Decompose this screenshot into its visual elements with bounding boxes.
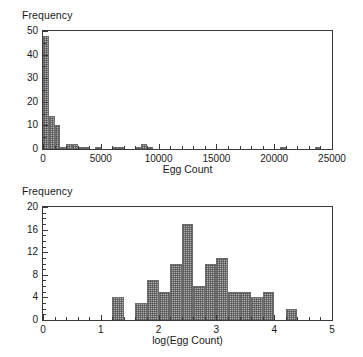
axis-tick	[182, 146, 183, 149]
histogram-bar	[263, 292, 275, 320]
axis-tick	[89, 317, 90, 320]
axis-tick	[43, 78, 48, 79]
axis-tick	[251, 146, 252, 149]
histogram-bar	[170, 264, 182, 321]
axis-tick	[182, 317, 183, 320]
axis-tick	[43, 213, 46, 214]
axis-tick	[43, 125, 48, 126]
axis-tick	[309, 146, 310, 149]
axis-tick	[263, 317, 264, 320]
bar-series	[43, 207, 332, 320]
axis-tick	[240, 317, 241, 320]
histogram-bar	[135, 303, 147, 320]
axis-tick	[320, 317, 321, 320]
axis-tick	[274, 144, 275, 149]
y-axis-title: Frequency	[22, 9, 73, 21]
histogram-bar	[240, 292, 252, 320]
axis-tick	[43, 218, 46, 219]
axis-tick	[112, 317, 113, 320]
axis-tick	[43, 235, 46, 236]
plot-area	[43, 207, 332, 320]
axis-tick	[43, 102, 48, 103]
bar-series	[43, 31, 332, 149]
axis-tick	[135, 146, 136, 149]
y-tick-label: 20	[2, 96, 38, 107]
axis-tick	[159, 144, 160, 149]
axis-tick	[147, 317, 148, 320]
axis-tick	[228, 317, 229, 320]
axis-tick	[66, 317, 67, 320]
axis-tick	[101, 144, 102, 149]
axis-tick	[43, 224, 46, 225]
axis-tick	[43, 43, 46, 44]
axis-tick	[43, 90, 46, 91]
histogram-bar	[251, 297, 263, 320]
axis-tick	[297, 317, 298, 320]
axis-tick	[228, 146, 229, 149]
axis-tick	[124, 146, 125, 149]
y-tick-label: 4	[2, 291, 38, 302]
axis-tick	[66, 146, 67, 149]
axis-tick	[43, 269, 46, 270]
axis-tick	[216, 315, 217, 320]
axis-tick	[170, 317, 171, 320]
x-axis-title: Egg Count	[42, 163, 333, 175]
axis-tick	[43, 314, 46, 315]
histogram-bar	[147, 280, 159, 320]
y-tick-label: 16	[2, 224, 38, 235]
axis-tick	[78, 317, 79, 320]
axis-tick	[216, 144, 217, 149]
chart-panel-egg-count: Frequency 01020304050 050001000015000200…	[0, 0, 363, 180]
axis-tick	[43, 303, 46, 304]
axis-tick	[309, 317, 310, 320]
axis-tick	[320, 146, 321, 149]
y-tick-label: 30	[2, 72, 38, 83]
axis-tick	[205, 146, 206, 149]
axis-tick	[274, 315, 275, 320]
axis-tick	[240, 146, 241, 149]
axis-tick	[43, 55, 48, 56]
y-tick-label: 8	[2, 269, 38, 280]
histogram-bar	[182, 224, 194, 320]
axis-tick	[193, 146, 194, 149]
histogram-bar	[228, 292, 240, 320]
axis-tick	[55, 146, 56, 149]
axis-tick	[263, 146, 264, 149]
axis-tick	[101, 315, 102, 320]
y-tick-label: 50	[2, 25, 38, 36]
y-tick-label: 10	[2, 119, 38, 130]
axis-tick	[43, 247, 46, 248]
axis-tick	[43, 297, 48, 298]
axis-tick	[43, 114, 46, 115]
axis-tick	[89, 146, 90, 149]
y-axis-title: Frequency	[22, 185, 73, 197]
axis-tick	[78, 146, 79, 149]
x-axis-title: log(Egg Count)	[42, 334, 333, 346]
y-tick-label: 12	[2, 246, 38, 257]
plot-frame	[42, 206, 333, 321]
plot-area	[43, 31, 332, 149]
axis-tick	[43, 292, 46, 293]
axis-tick	[55, 317, 56, 320]
axis-tick	[205, 317, 206, 320]
axis-tick	[43, 320, 48, 321]
axis-tick	[112, 146, 113, 149]
axis-tick	[147, 146, 148, 149]
chart-panel-log-egg-count: Frequency 048121620 012345 log(Egg Count…	[0, 180, 363, 357]
axis-tick	[43, 258, 46, 259]
axis-tick	[43, 137, 46, 138]
axis-tick	[43, 286, 46, 287]
axis-tick	[193, 317, 194, 320]
axis-tick	[286, 146, 287, 149]
axis-tick	[43, 149, 48, 150]
plot-frame	[42, 30, 333, 150]
histogram-bar	[216, 258, 228, 320]
axis-tick	[43, 230, 48, 231]
histogram-bar	[286, 309, 298, 320]
axis-tick	[43, 264, 46, 265]
axis-tick	[43, 66, 46, 67]
axis-tick	[43, 241, 46, 242]
axis-tick	[43, 280, 46, 281]
axis-tick	[170, 146, 171, 149]
y-tick-label: 40	[2, 49, 38, 60]
